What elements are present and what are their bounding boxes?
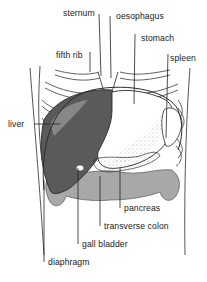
label-stomach: stomach	[141, 33, 174, 43]
label-diaphragm: diaphragm	[48, 257, 90, 267]
label-oesophagus: oesophagus	[116, 11, 164, 21]
label-fifth-rib: fifth rib	[56, 50, 83, 60]
label-pancreas: pancreas	[124, 203, 160, 213]
label-spleen: spleen	[170, 53, 196, 63]
label-liver: liver	[8, 119, 24, 129]
label-sternum: sternum	[63, 8, 95, 18]
label-gall-bladder: gall bladder	[82, 239, 128, 249]
gall-bladder-shape	[76, 165, 84, 171]
label-transverse-colon: transverse colon	[104, 221, 169, 231]
